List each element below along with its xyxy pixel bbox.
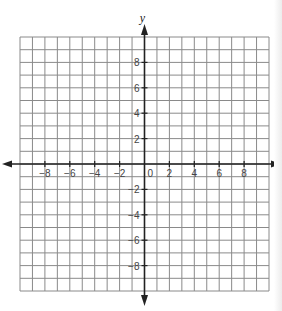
y-tick-label: −2 bbox=[128, 184, 140, 195]
x-tick-label: −8 bbox=[39, 168, 51, 179]
x-tick-label: 2 bbox=[167, 168, 173, 179]
y-tick-label: 8 bbox=[134, 57, 140, 68]
x-tick-label: 8 bbox=[241, 168, 247, 179]
axes bbox=[2, 24, 281, 306]
up-arrow-icon bbox=[141, 24, 148, 35]
x-tick-label: −2 bbox=[114, 168, 126, 179]
left-arrow-icon bbox=[2, 161, 12, 168]
page-edge-shadow bbox=[274, 0, 282, 311]
y-tick-label: −8 bbox=[128, 261, 140, 272]
y-tick-label: −6 bbox=[128, 235, 140, 246]
x-tick-label: −6 bbox=[64, 168, 76, 179]
y-tick-label: −4 bbox=[128, 210, 140, 221]
origin-label: 0 bbox=[148, 168, 154, 179]
coordinate-plane: −8−6−4−224688642−2−4−6−8 y 0 bbox=[0, 0, 282, 311]
y-tick-label: 4 bbox=[134, 108, 140, 119]
x-tick-label: −4 bbox=[89, 168, 101, 179]
y-axis-label: y bbox=[139, 11, 146, 25]
x-tick-label: 6 bbox=[216, 168, 222, 179]
x-tick-label: 4 bbox=[192, 168, 198, 179]
y-tick-label: 2 bbox=[134, 134, 140, 145]
down-arrow-icon bbox=[141, 295, 148, 306]
y-tick-label: 6 bbox=[134, 83, 140, 94]
